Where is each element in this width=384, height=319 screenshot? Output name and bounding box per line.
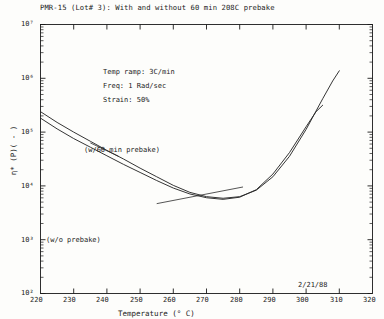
x-tick-label-280: 280 <box>230 296 243 304</box>
data-curves <box>41 71 340 200</box>
plot-area <box>0 0 384 319</box>
annotation-frequency: Freq: 1 Rad/sec <box>103 82 166 90</box>
y-tick-label-1e7: 10⁷ <box>21 20 34 28</box>
annotation-strain: Strain: 50% <box>103 96 149 104</box>
leader-without-prebake <box>157 187 243 204</box>
plot-svg <box>0 0 384 319</box>
x-tick-label-260: 260 <box>163 296 176 304</box>
y-tick-label-1e3: 10³ <box>21 236 34 244</box>
x-tick-label-300: 300 <box>296 296 309 304</box>
curve-label-with-prebake: (w/60 min prebake) <box>84 146 160 154</box>
curve-label-without-prebake: (w/o prebake) <box>46 236 101 244</box>
x-tick-label-220: 220 <box>30 296 43 304</box>
y-axis-major-ticks <box>41 25 373 294</box>
curve-without-prebake <box>41 105 323 199</box>
chart-screenshot: PMR-15 (Lot# 3): With and without 60 min… <box>0 0 384 319</box>
curve-with-prebake <box>41 71 340 199</box>
date-stamp: 2/21/88 <box>298 281 328 289</box>
x-tick-label-270: 270 <box>196 296 209 304</box>
y-tick-label-1e6: 10⁶ <box>21 74 34 82</box>
x-tick-label-230: 230 <box>63 296 76 304</box>
x-tick-label-240: 240 <box>96 296 109 304</box>
axis-frame <box>41 25 373 294</box>
x-tick-label-290: 290 <box>263 296 276 304</box>
y-tick-label-1e4: 10⁴ <box>21 182 34 190</box>
x-tick-label-320: 320 <box>363 296 376 304</box>
x-tick-label-310: 310 <box>330 296 343 304</box>
y-tick-label-1e5: 10⁵ <box>21 128 34 136</box>
annotation-temp-ramp: Temp ramp: 3C/min <box>103 68 175 76</box>
x-tick-label-250: 250 <box>130 296 143 304</box>
